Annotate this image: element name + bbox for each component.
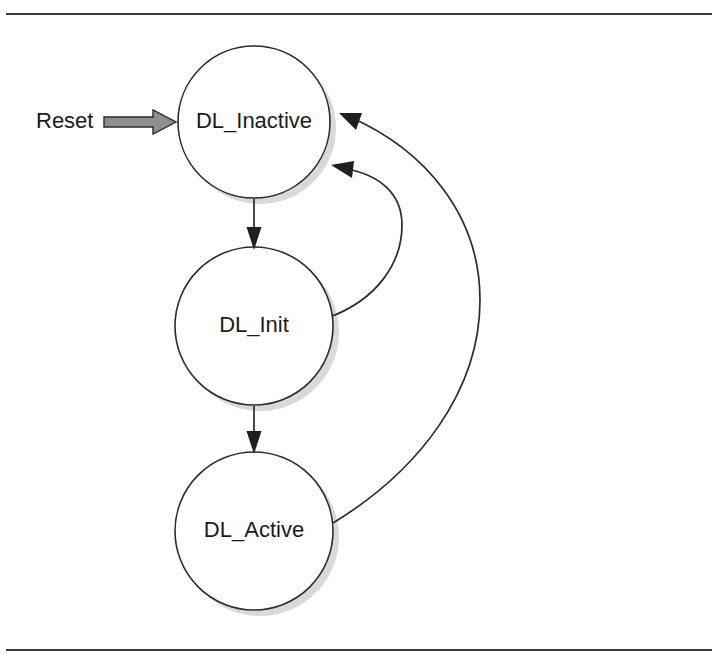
state-diagram-canvas: Reset DL_Inactive DL_Init DL_Active — [0, 0, 719, 664]
state-label-dl-inactive: DL_Inactive — [196, 108, 312, 133]
reset-arrow-icon — [104, 110, 176, 134]
state-label-dl-init: DL_Init — [219, 312, 289, 337]
transition-active-to-inactive-path — [333, 117, 480, 523]
reset-label: Reset — [36, 108, 93, 133]
state-diagram-figure: Reset DL_Inactive DL_Init DL_Active — [0, 0, 719, 664]
transition-init-to-inactive-arrowhead — [331, 161, 354, 178]
transition-init-to-active-arrowhead — [247, 431, 262, 454]
transition-active-to-inactive-arrowhead — [339, 113, 362, 130]
transition-init-to-inactive-path — [327, 168, 402, 318]
state-label-dl-active: DL_Active — [204, 517, 304, 542]
